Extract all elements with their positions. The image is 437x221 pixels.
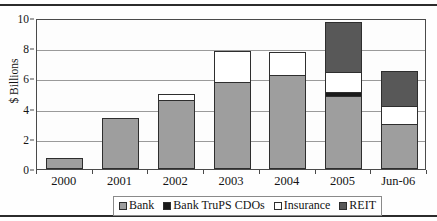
x-axis-tick-label: 2002: [163, 174, 188, 189]
x-axis-tick-mark: [92, 170, 93, 174]
bar-segment-reit[interactable]: [381, 71, 418, 106]
top-rule: [0, 4, 437, 6]
x-axis-tick-mark: [36, 170, 37, 174]
y-axis-tick-label: 0: [23, 164, 29, 176]
bar-group[interactable]: [158, 94, 195, 169]
y-axis-title: $ Billions: [8, 41, 20, 121]
bar-group[interactable]: [381, 71, 418, 169]
y-axis-tick-mark: [30, 109, 34, 110]
x-axis-tick-label: 2005: [330, 174, 355, 189]
bar-group[interactable]: [46, 158, 83, 169]
x-axis-tick-mark: [370, 170, 371, 174]
legend-item[interactable]: Insurance: [274, 198, 331, 213]
y-axis-tick-label: 6: [23, 73, 29, 85]
chart-legend: BankBank TruPS CDOsInsuranceREIT: [113, 196, 382, 216]
legend-swatch-icon: [339, 202, 347, 210]
bar-group[interactable]: [102, 118, 139, 169]
bar-segment-bank[interactable]: [269, 75, 306, 169]
y-axis-tick-mark: [30, 170, 34, 171]
legend-swatch-icon: [119, 202, 127, 210]
legend-swatch-icon: [274, 202, 282, 210]
bar-segment-reit[interactable]: [325, 22, 362, 73]
y-axis-tick-mark: [30, 19, 34, 20]
y-axis-tick-label: 2: [23, 134, 29, 146]
bar-segment-insurance[interactable]: [214, 51, 251, 82]
plot-area: [36, 19, 426, 170]
bar-segment-insurance[interactable]: [325, 72, 362, 92]
legend-item[interactable]: Bank: [119, 198, 154, 213]
bar-group[interactable]: [214, 51, 251, 169]
legend-item[interactable]: Bank TruPS CDOs: [163, 198, 264, 213]
legend-label: REIT: [349, 198, 376, 213]
bar-segment-insurance[interactable]: [269, 52, 306, 75]
bar-segment-insurance[interactable]: [381, 106, 418, 123]
bar-segment-bank[interactable]: [158, 100, 195, 169]
bar-group[interactable]: [269, 52, 306, 169]
x-axis-tick-label: 2000: [51, 174, 76, 189]
x-axis: 200020012002200320042005Jun-06: [36, 170, 426, 192]
legend-item[interactable]: REIT: [339, 198, 376, 213]
x-axis-tick-label: Jun-06: [381, 174, 415, 189]
x-axis-tick-label: 2001: [107, 174, 132, 189]
x-axis-tick-label: 2003: [219, 174, 244, 189]
legend-swatch-icon: [163, 202, 171, 210]
bar-segment-bank[interactable]: [102, 118, 139, 169]
y-axis-tick-mark: [30, 49, 34, 50]
y-axis-tick-label: 4: [23, 104, 29, 116]
y-axis: $ Billions 0246810: [0, 19, 34, 170]
bar-segment-bank[interactable]: [214, 82, 251, 169]
bar-segment-bank[interactable]: [381, 124, 418, 169]
y-axis-tick-mark: [30, 139, 34, 140]
x-axis-tick-mark: [315, 170, 316, 174]
legend-label: Insurance: [284, 198, 331, 213]
x-axis-tick-mark: [147, 170, 148, 174]
figure-container: $ Billions 0246810 200020012002200320042…: [0, 0, 437, 221]
x-axis-tick-mark: [203, 170, 204, 174]
x-axis-tick-mark: [259, 170, 260, 174]
y-axis-tick-label: 8: [23, 43, 29, 55]
legend-label: Bank TruPS CDOs: [173, 198, 264, 213]
legend-label: Bank: [129, 198, 154, 213]
bar-segment-bank[interactable]: [46, 158, 83, 169]
x-axis-tick-mark: [426, 170, 427, 174]
x-axis-tick-label: 2004: [274, 174, 299, 189]
y-axis-tick-label: 10: [18, 13, 30, 25]
y-axis-tick-mark: [30, 79, 34, 80]
bar-segment-bank[interactable]: [325, 96, 362, 169]
bar-group[interactable]: [325, 22, 362, 169]
